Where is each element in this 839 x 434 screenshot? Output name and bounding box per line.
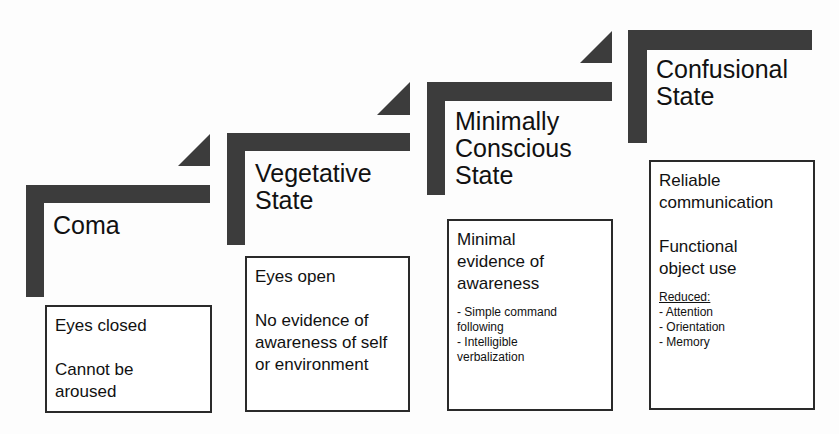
criterion: Cannot be aroused xyxy=(55,359,165,403)
stage-criteria-box: Eyes open No evidence of awareness of se… xyxy=(245,256,410,412)
step-bar-vertical xyxy=(427,82,445,195)
detail: - Orientation xyxy=(659,320,805,335)
step-bar-vertical xyxy=(628,30,647,143)
detail: - Memory xyxy=(659,335,805,350)
stage-title: Minimally Conscious State xyxy=(455,108,572,189)
step-bar-vertical xyxy=(227,133,245,245)
criterion: Reliable communication xyxy=(659,170,799,214)
step-bar-vertical xyxy=(26,185,44,297)
criterion: Eyes closed xyxy=(55,315,202,337)
stage-criteria-box: Eyes closed Cannot be aroused xyxy=(45,305,212,413)
stage-criteria-box: Minimal evidence of awareness - Simple c… xyxy=(447,219,613,411)
detail: - Attention xyxy=(659,305,805,320)
step-bar-horizontal xyxy=(227,133,410,151)
details-heading: Reduced: xyxy=(659,290,805,305)
step-arrow-icon xyxy=(377,82,410,115)
criterion: Eyes open xyxy=(255,266,400,288)
detail: - Intelligible verbalization xyxy=(457,335,557,365)
step-bar-horizontal xyxy=(427,82,612,101)
stage-title: Confusional State xyxy=(656,56,788,110)
stage-title: Vegetative State xyxy=(255,160,372,214)
detail: - Simple command following xyxy=(457,305,592,335)
step-arrow-icon xyxy=(178,134,210,166)
step-arrow-icon xyxy=(580,31,612,63)
stage-title: Coma xyxy=(53,212,120,239)
criterion: No evidence of awareness of self or envi… xyxy=(255,310,390,376)
stage-criteria-box: Reliable communication Functional object… xyxy=(649,160,815,410)
step-bar-horizontal xyxy=(26,185,210,203)
criterion: Functional object use xyxy=(659,236,759,280)
criterion: Minimal evidence of awareness xyxy=(457,229,557,295)
step-bar-horizontal xyxy=(628,30,812,50)
